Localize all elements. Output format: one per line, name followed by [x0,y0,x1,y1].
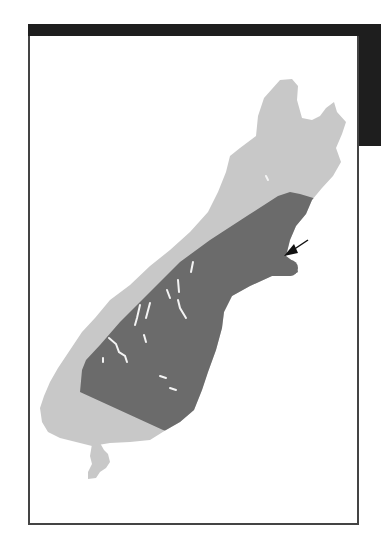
stewart-island [88,443,110,479]
south-island-map [0,0,381,559]
